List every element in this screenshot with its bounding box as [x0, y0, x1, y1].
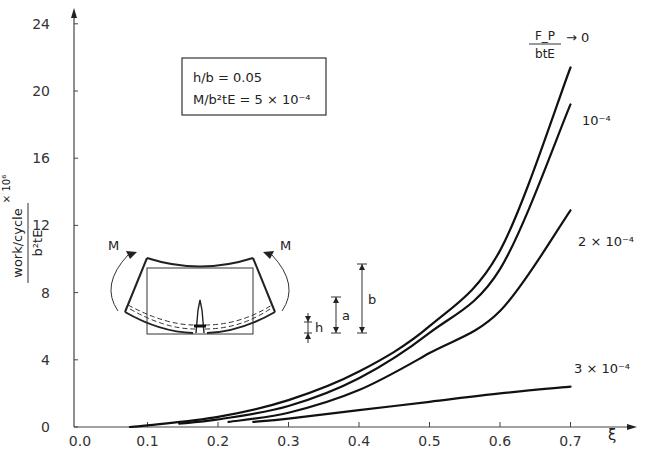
parameter-denominator: btE	[535, 47, 555, 61]
x-tick-label: 0.1	[136, 433, 158, 449]
x-tick-label: 0.7	[559, 433, 581, 449]
moment-label-left: M	[108, 238, 119, 253]
y-tick-label: 16	[32, 150, 50, 166]
parameter-numerator: F_P	[535, 29, 555, 43]
dim-label-h: h	[315, 320, 323, 335]
curve-series-0	[130, 67, 571, 427]
dim-label-a: a	[342, 308, 350, 323]
annotation-line-1: h/b = 0.05	[193, 70, 262, 85]
x-tick-label: 0.0	[69, 433, 91, 449]
dim-label-b: b	[368, 292, 376, 307]
x-tick-label: 0.2	[207, 433, 229, 449]
series-label: 2 × 10⁻⁴	[578, 234, 634, 249]
series-label: 10⁻⁴	[582, 113, 611, 128]
y-label-numerator: work/cycle	[10, 208, 25, 277]
x-tick-label: 0.3	[277, 433, 299, 449]
x-tick-label: 0.5	[418, 433, 440, 449]
curve-series-1	[179, 104, 570, 423]
annotation-box: h/b = 0.05 M/b²tE = 5 × 10⁻⁴	[182, 58, 326, 115]
y-tick-label: 8	[41, 285, 50, 301]
series-label: 3 × 10⁻⁴	[574, 361, 630, 376]
x-tick-label: 0.6	[489, 433, 511, 449]
curves	[130, 67, 571, 427]
curve-series-3	[253, 387, 570, 422]
x-axis-label: ξ	[608, 426, 616, 444]
y-ticks: 04812162024	[32, 16, 78, 435]
y-tick-label: 24	[32, 16, 50, 32]
series-labels: → 010⁻⁴2 × 10⁻⁴3 × 10⁻⁴	[566, 30, 634, 376]
chart: 04812162024 0.00.10.20.30.40.50.60.7 wor…	[0, 0, 645, 460]
x-tick-label: 0.4	[348, 433, 370, 449]
annotation-line-2: M/b²tE = 5 × 10⁻⁴	[193, 92, 311, 107]
inset-diagram: M M h a b	[108, 238, 376, 343]
series-label: → 0	[566, 30, 589, 45]
y-tick-label: 0	[41, 419, 50, 435]
y-tick-label: 20	[32, 83, 50, 99]
moment-label-right: M	[280, 238, 291, 253]
parameter-label: F_P btE	[529, 29, 561, 61]
y-axis	[71, 8, 77, 427]
y-label-multiplier: × 10⁶	[1, 175, 12, 203]
y-tick-label: 4	[41, 352, 50, 368]
y-label-denominator: b²tE	[30, 230, 45, 257]
